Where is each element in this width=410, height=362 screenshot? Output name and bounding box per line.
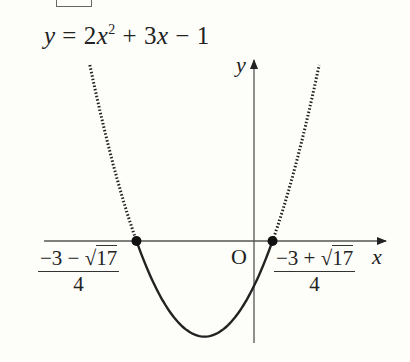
origin-label: O	[231, 244, 247, 270]
curve-dotted-right	[273, 65, 320, 241]
root-left-denominator: 4	[38, 272, 119, 297]
graph	[0, 0, 410, 362]
curve-dotted-left	[90, 65, 137, 241]
root-left-numerator: −3 − √	[40, 246, 96, 270]
y-axis-label: y	[236, 52, 246, 78]
root-point-left	[131, 236, 141, 246]
root-right-denominator: 4	[274, 272, 355, 297]
root-point-right	[268, 236, 278, 246]
curve-solid	[137, 241, 273, 337]
root-left-radicand: 17	[96, 245, 117, 270]
x-axis-label: x	[372, 244, 382, 270]
root-right-radicand: 17	[332, 245, 353, 270]
root-label-right: −3 + √17 4	[274, 246, 355, 297]
root-right-numerator: −3 + √	[276, 246, 332, 270]
root-label-left: −3 − √17 4	[38, 246, 119, 297]
